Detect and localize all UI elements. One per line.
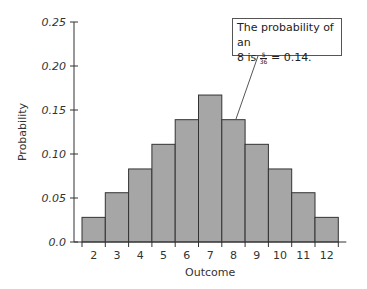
x-tick-label: 10 [273, 249, 287, 262]
annotation-line-2: 8 is 536 = 0.14. [237, 50, 337, 65]
y-tick-label: 0.0 [49, 236, 67, 249]
y-tick-label: 0.05 [42, 192, 67, 205]
y-axis-label: Probability [16, 102, 29, 161]
bar-4 [129, 169, 152, 242]
x-tick-label: 2 [90, 249, 97, 262]
y-tick-label: 0.25 [42, 16, 67, 29]
x-tick-label: 5 [160, 249, 167, 262]
x-tick-label: 12 [320, 249, 334, 262]
y-tick-label: 0.15 [42, 104, 67, 117]
annotation-leader-line [236, 56, 258, 120]
bar-2 [82, 217, 105, 242]
annotation-line-1: The probability of an [237, 20, 337, 50]
bar-7 [199, 95, 222, 242]
bar-10 [268, 169, 291, 242]
x-axis-label: Outcome [185, 266, 235, 279]
x-tick-label: 8 [230, 249, 237, 262]
bar-5 [152, 144, 175, 242]
x-tick-label: 9 [253, 249, 260, 262]
x-tick-label: 4 [137, 249, 144, 262]
x-tick-label: 11 [296, 249, 310, 262]
bar-11 [292, 193, 315, 242]
x-tick-label: 6 [183, 249, 190, 262]
x-tick-label: 7 [207, 249, 214, 262]
bar-9 [245, 144, 268, 242]
y-tick-label: 0.10 [42, 148, 67, 161]
bar-3 [105, 193, 128, 242]
bar-6 [175, 120, 198, 242]
bar-12 [315, 217, 338, 242]
annotation-callout: The probability of an 8 is 536 = 0.14. [232, 18, 342, 56]
bar-8 [222, 120, 245, 242]
x-tick-label: 3 [113, 249, 120, 262]
y-tick-label: 0.20 [42, 60, 67, 73]
